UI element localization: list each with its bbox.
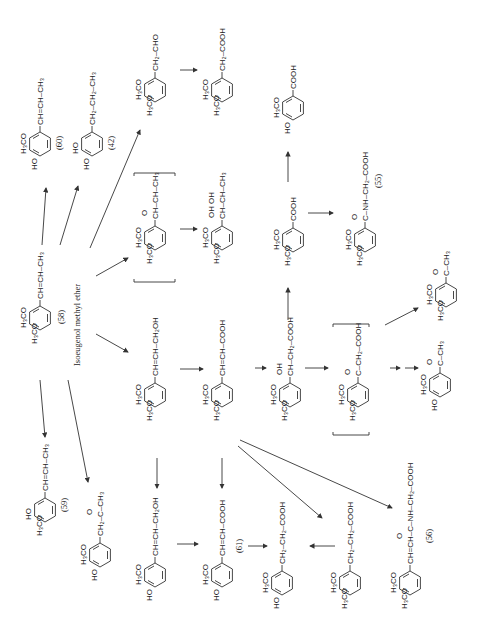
sub-text: HO [90, 569, 99, 581]
sub-text: HO [283, 122, 292, 134]
chain-text: C–CH₂–COOH [354, 322, 363, 376]
arrow [42, 188, 46, 245]
sub-text: H₃CO [340, 588, 349, 609]
pathway-diagram: CH=CH–CH₃ H₃CO H₃CO (58) Isoeugenol meth… [0, 0, 479, 632]
chain-text: CH₂–COOH [218, 28, 227, 71]
sub-text: H₃CO [19, 133, 28, 154]
sub-text: H₃CO [329, 572, 338, 593]
sub-text: H₃CO [134, 384, 143, 405]
arrow [96, 334, 128, 352]
arrow [385, 308, 418, 325]
sub-text: H₃CO [272, 97, 281, 118]
sub-text: H₃CO [261, 572, 270, 593]
sub-text: H₃CO [283, 245, 292, 266]
sub-text: H₃CO [134, 227, 143, 248]
compound-number: (59) [59, 498, 69, 512]
sub-text: H₃CO [280, 400, 289, 421]
compound-56: CH=CH–C–NH–CH₂–COOH O H₃CO H₃CO (56) [389, 462, 434, 609]
compound-methyl-ketone: CH₂–C–CH₃ O H₃CO HO [79, 492, 110, 581]
carbonyl-o: O [431, 269, 440, 275]
compound-58: CH=CH–CH₃ H₃CO H₃CO (58) Isoeugenol meth… [19, 252, 82, 366]
compound-homoveratric-acid: CH₂–COOH H₃CO H₃CO [201, 28, 232, 116]
sub-text: H₃CO [400, 588, 409, 609]
compound-number: (56) [424, 529, 434, 543]
sub-text: HO [71, 142, 80, 154]
arrow [60, 186, 78, 245]
compound-number: (42) [106, 136, 116, 150]
compound-name: Isoeugenol methyl ether [72, 284, 82, 366]
carbonyl-o: O [425, 359, 434, 365]
sub-text: HO [82, 158, 91, 170]
carbonyl-o: O [395, 533, 404, 539]
arrow [40, 380, 45, 437]
compound-55: C–NH–CH₂–COOH O H₃CO H₃CO (55) [344, 151, 383, 266]
compound-epoxide: CH–CH–CH₃ O H₃CO H₃CO [134, 172, 165, 264]
sub-text: H₃CO [201, 564, 210, 585]
chain-text: COOH [289, 197, 298, 221]
compound-number: (58) [56, 310, 66, 324]
sub-text: H₃CO [212, 243, 221, 264]
chain-text: CH=CH–CH₃ [36, 78, 45, 125]
sub-text: H₃CO [201, 79, 210, 100]
sub-text: H₃CO [355, 245, 364, 266]
sub-text: H₃CO [212, 400, 221, 421]
sub-text: H₃CO [145, 243, 154, 264]
arrow [96, 258, 128, 276]
compound-acetoveratrone: C–CH₃ O H₃CO H₃CO [425, 251, 456, 321]
chain-text: CH=CH–CH₃ [36, 252, 45, 299]
compound-acetovanillone: C–CH₃ O H₃CO HO [419, 341, 450, 411]
compound-veratric-acid: COOH H₃CO H₃CO [272, 197, 303, 266]
chain-text: CH₂–C–CH₃ [96, 492, 105, 536]
chain-text: CH₂–CH₂–CH₃ [88, 72, 97, 125]
oh-text: OH [207, 192, 216, 204]
sub-text: H₃CO [201, 384, 210, 405]
chain-text: CH₂–CH₂–COOH [346, 502, 355, 564]
sub-text: H₃CO [201, 227, 210, 248]
chain-text: CH=CH–CH₂OH [151, 317, 160, 376]
compound-aldehyde: CH₂–CHO H₃CO H₃CO [134, 34, 165, 116]
chain-text: CH=CH–CH₃ [41, 444, 50, 491]
compound-dimethoxy-cinnamic-acid: CH=CH–COOH H₃CO H₃CO [201, 320, 232, 421]
sub-text: HO [212, 589, 221, 601]
bracket [333, 324, 369, 327]
chain-text: CH=CH–COOH [218, 500, 227, 556]
sub-text: H₃CO [389, 572, 398, 593]
sub-text: H₃CO [348, 400, 357, 421]
sub-text: H₃CO [419, 374, 428, 395]
sub-text: HO [24, 508, 33, 520]
compound-keto-acid: C–CH₂–COOH O H₃CO H₃CO [337, 322, 368, 421]
compound-42: CH₂–CH₂–CH₃ HO HO (42) [71, 72, 116, 170]
chain-text: C–CH₃ [442, 251, 451, 276]
sub-text: HO [430, 399, 439, 411]
compound-coniferyl-alcohol: CH=CH–CH₂OH H₃CO HO [134, 497, 165, 601]
compound-61: CH=CH–COOH H₃CO HO (61) [201, 500, 244, 601]
oh-text: OH [207, 206, 216, 218]
epoxide-o: O [140, 210, 149, 216]
compound-hydroxy-acid: CH–CH₂–COOH OH H₃CO H₃CO [269, 317, 300, 421]
sub-text: HO [145, 589, 154, 601]
sub-text: H₃CO [35, 515, 44, 536]
sub-text: H₃CO [145, 400, 154, 421]
pathway-svg: CH=CH–CH₃ H₃CO H₃CO (58) Isoeugenol meth… [0, 0, 479, 632]
chain-text: CH=CH–CH₂OH [151, 497, 160, 556]
sub-text: H₃CO [425, 284, 434, 305]
sub-text: HO [272, 597, 281, 609]
compound-diol: CH–CH–CH₃ OH OH H₃CO H₃CO [201, 172, 232, 264]
sub-text: H₃CO [19, 307, 28, 328]
bracket [333, 432, 369, 435]
chain-text: C–NH–CH₂–COOH [361, 151, 370, 221]
chain-text: CH–CH–CH₃ [151, 172, 160, 219]
compound-vanillic-acid: COOH H₃CO HO [272, 65, 303, 134]
compound-number: (61) [234, 539, 244, 553]
chain-text: CH=CH–C–NH–CH₂–COOH [406, 462, 415, 564]
sub-text: H₃CO [269, 384, 278, 405]
reaction-arrows [40, 70, 418, 546]
arrow [68, 380, 88, 482]
sub-text: H₃CO [145, 95, 154, 116]
sub-text: H₃CO [272, 229, 281, 250]
carbonyl-o: O [85, 509, 94, 515]
arrow [240, 440, 392, 508]
chain-text: COOH [289, 65, 298, 89]
oh-text: OH [275, 363, 284, 375]
sub-text: H₃CO [134, 79, 143, 100]
